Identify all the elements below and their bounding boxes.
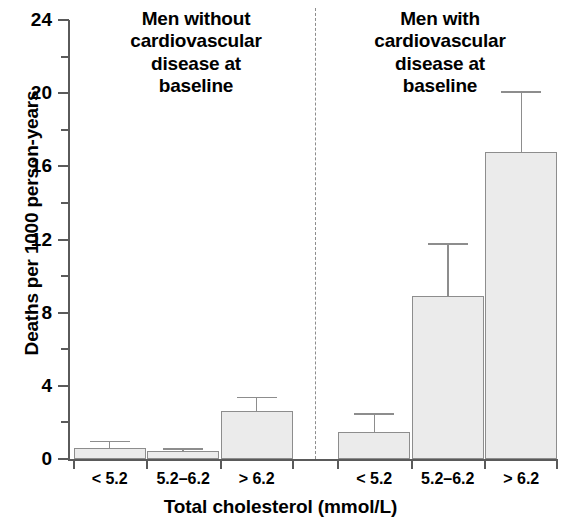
errorbar-stem — [521, 91, 523, 151]
panel-title-line: disease at — [340, 53, 540, 75]
bar — [485, 152, 557, 459]
x-tick — [146, 460, 148, 469]
bar-chart-figure: Deaths per 1000 person-years 04812162024… — [0, 0, 561, 519]
y-tick-label: 24 — [12, 10, 52, 29]
errorbar-stem — [447, 243, 449, 296]
x-tick-label: > 6.2 — [202, 470, 312, 488]
panel-divider — [315, 8, 316, 459]
errorbar-cap — [354, 413, 394, 415]
x-tick — [556, 460, 558, 469]
bar — [221, 411, 293, 459]
x-tick-label: > 6.2 — [466, 470, 561, 488]
x-tick — [484, 460, 486, 469]
errorbar-cap — [163, 448, 203, 450]
panel-title-line: Men without — [96, 8, 296, 30]
panel-title-line: Men with — [340, 8, 540, 30]
panel-title-men-with-cvd: Men withcardiovasculardisease atbaseline — [340, 8, 540, 98]
x-tick — [411, 460, 413, 469]
x-tick — [73, 460, 75, 469]
panel-title-line: cardiovascular — [340, 30, 540, 52]
panel-title-line: baseline — [96, 75, 296, 97]
errorbar-cap — [90, 441, 130, 443]
panel-title-line: cardiovascular — [96, 30, 296, 52]
bar — [147, 451, 219, 459]
y-tick-label: 4 — [12, 376, 52, 395]
panel-title-line: disease at — [96, 53, 296, 75]
x-axis-title: Total cholesterol (mmol/L) — [0, 496, 561, 518]
x-tick — [337, 460, 339, 469]
errorbar-stem — [256, 397, 258, 412]
bar — [412, 296, 484, 459]
errorbar-cap — [428, 243, 468, 245]
y-tick-label: 0 — [12, 449, 52, 468]
bar — [74, 448, 146, 459]
y-tick-label: 8 — [12, 303, 52, 322]
y-tick-label: 20 — [12, 83, 52, 102]
panel-title-line: baseline — [340, 75, 540, 97]
x-tick — [292, 460, 294, 469]
panel-title-men-without-cvd: Men withoutcardiovasculardisease atbasel… — [96, 8, 296, 98]
bar — [338, 432, 410, 459]
y-tick-label: 12 — [12, 230, 52, 249]
errorbar-stem — [374, 413, 376, 431]
y-tick-label: 16 — [12, 156, 52, 175]
x-tick — [220, 460, 222, 469]
errorbar-cap — [237, 397, 277, 399]
